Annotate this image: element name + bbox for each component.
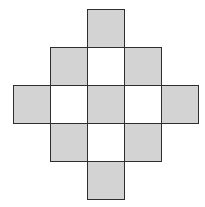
grid-cell-shaded [87,161,125,200]
grid-cell-unshaded [87,123,125,162]
grid-cell-shaded [13,85,51,124]
grid-cell-shaded [87,85,125,124]
grid-cell-unshaded [50,85,88,124]
diamond-grid-figure [0,0,205,207]
grid-cell-unshaded [87,47,125,86]
grid-cell-shaded [50,123,88,162]
grid-cell-shaded [50,47,88,86]
grid-cell-shaded [87,9,125,48]
grid-cell-unshaded [124,85,162,124]
grid-cell-shaded [124,123,162,162]
grid-cell-shaded [124,47,162,86]
grid-cell-shaded [161,85,199,124]
